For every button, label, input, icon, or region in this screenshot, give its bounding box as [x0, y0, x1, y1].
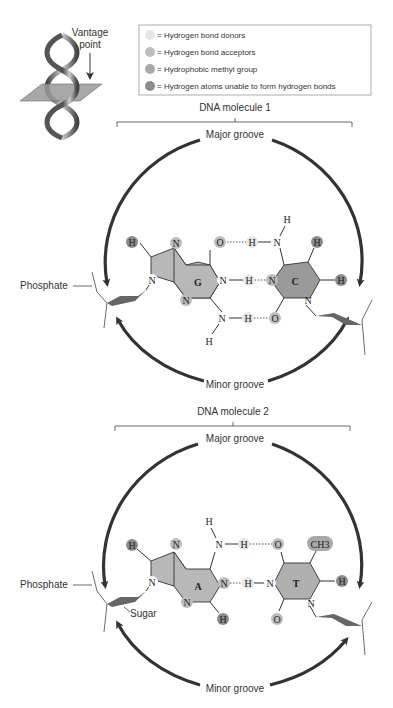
molecule1-minor-groove-label: Minor groove: [206, 379, 265, 390]
molecule1-minor-groove-arc-left: [118, 320, 204, 381]
atom-n: N: [183, 597, 190, 608]
atom-h: H: [244, 313, 251, 324]
atom-n: N: [307, 598, 314, 609]
legend-methyl-swatch: [145, 64, 155, 74]
vantage-plane: [20, 84, 102, 101]
atom-h: H: [245, 275, 252, 286]
atom-n: N: [172, 539, 179, 550]
atom-h: H: [128, 237, 135, 248]
molecule1-left-backbone: [92, 272, 107, 328]
legend: = Hydrogen bond donors = Hydrogen bond a…: [139, 25, 371, 95]
vantage-label-2: point: [79, 39, 101, 50]
atom-h: H: [128, 540, 135, 551]
atom-h: H: [205, 336, 212, 347]
molecule2-minor-groove-label: Minor groove: [206, 683, 265, 694]
molecule1-right-backbone: [362, 300, 372, 355]
molecule1-left-sugar: [107, 290, 146, 306]
molecule2-right-sugar: [316, 614, 362, 626]
helix-illustration: [20, 35, 102, 138]
molecule2-bracket: [115, 422, 350, 431]
atom-h: H: [313, 237, 320, 248]
atom-o: O: [274, 539, 281, 550]
cytosine-label: C: [291, 276, 298, 287]
legend-label-nonbonding-h: = Hydrogen atoms unable to form hydrogen…: [157, 82, 336, 91]
atom-n: N: [215, 539, 222, 550]
molecule2-phosphate-label: Phosphate: [20, 579, 68, 590]
atom-n: N: [219, 275, 226, 286]
molecule2-title: DNA molecule 2: [197, 406, 269, 417]
atom-h: H: [338, 576, 345, 587]
atom-h: H: [205, 516, 212, 527]
methyl-label: CH3: [311, 539, 330, 550]
molecule1-phosphate-label: Phosphate: [20, 280, 68, 291]
molecule1-title: DNA molecule 1: [199, 102, 271, 113]
legend-donor-swatch: [145, 30, 155, 40]
atom-n: N: [266, 578, 273, 589]
atom-h: H: [337, 275, 344, 286]
atom-n: N: [182, 295, 189, 306]
molecule2-sugar-label: Sugar: [130, 608, 157, 619]
legend-nonbonding-h-swatch: [145, 81, 155, 91]
molecule2-right-backbone: [362, 602, 372, 655]
guanine-base: G H N N N O N N H H H: [126, 236, 255, 347]
atom-n: N: [172, 238, 179, 249]
molecule1-minor-groove-arc-right: [268, 320, 347, 381]
vantage-label-1: Vantage: [72, 27, 109, 38]
atom-o: O: [216, 237, 223, 248]
legend-acceptor-swatch: [145, 47, 155, 57]
atom-n: N: [273, 237, 280, 248]
atom-n: N: [148, 275, 155, 286]
molecule1-major-groove-arc-right: [272, 140, 362, 283]
guanine-label: G: [194, 277, 202, 288]
atom-h: H: [283, 214, 290, 225]
dna-groove-diagram: Vantage point = Hydrogen bond donors = H…: [0, 0, 393, 708]
atom-n: N: [218, 313, 225, 324]
atom-n: N: [268, 275, 275, 286]
molecule2-minor-groove-arc-left: [118, 624, 200, 685]
cytosine-base: C N N H H H H N O: [227, 214, 347, 325]
molecule2-left-sugar: [107, 591, 146, 607]
molecule1-right-sugar: [316, 313, 362, 325]
adenine-label: A: [194, 581, 202, 592]
thymine-base: T H N O CH3 H N O: [230, 536, 348, 625]
atom-h: H: [244, 578, 251, 589]
atom-h: H: [219, 614, 226, 625]
atom-h: H: [240, 539, 247, 550]
molecule1-bracket: [117, 118, 352, 127]
atom-n: N: [304, 295, 311, 306]
atom-h: H: [248, 237, 255, 248]
legend-label-methyl: = Hydrophobic methyl group: [157, 65, 258, 74]
legend-label-donors: = Hydrogen bond donors: [157, 31, 245, 40]
atom-n: N: [148, 577, 155, 588]
molecule2-major-groove-label: Major groove: [206, 433, 265, 444]
atom-o: O: [273, 614, 280, 625]
molecule1-major-groove-label: Major groove: [206, 129, 265, 140]
molecule2-minor-groove-arc-right: [270, 640, 346, 685]
atom-n: N: [220, 578, 227, 589]
legend-label-acceptors: = Hydrogen bond acceptors: [157, 48, 256, 57]
atom-o: O: [271, 313, 278, 324]
thymine-label: T: [293, 578, 300, 589]
